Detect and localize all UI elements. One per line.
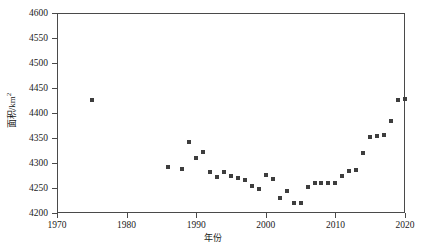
data-point (201, 150, 205, 154)
data-point (271, 177, 275, 181)
data-point (306, 185, 310, 189)
y-axis-title-text: 面积/km (7, 96, 17, 128)
x-axis-tick-label: 1970 (35, 220, 79, 230)
data-point (361, 151, 365, 155)
data-point (236, 176, 240, 180)
data-point (375, 134, 379, 138)
data-point (292, 201, 296, 205)
x-axis-tick (57, 213, 58, 218)
data-point (180, 167, 184, 171)
x-axis-tick (405, 213, 406, 218)
data-point (396, 98, 400, 102)
data-point (285, 189, 289, 193)
x-axis-tick (335, 213, 336, 218)
data-point (278, 196, 282, 200)
y-axis-tick (52, 13, 57, 14)
y-axis-tick-label: 4250 (8, 183, 48, 193)
data-point (250, 184, 254, 188)
x-axis-tick-label: 2010 (313, 220, 357, 230)
data-point (403, 97, 407, 101)
y-axis-title: 面积/km2 (4, 71, 17, 151)
data-point (90, 98, 94, 102)
data-point (382, 133, 386, 137)
data-point (166, 165, 170, 169)
data-point (319, 181, 323, 185)
data-point (264, 173, 268, 177)
data-point (229, 174, 233, 178)
data-point (340, 174, 344, 178)
scatter-chart: 420042504300435044004450450045504600 197… (0, 0, 426, 252)
data-point (354, 168, 358, 172)
y-axis-tick-label: 4200 (8, 208, 48, 218)
data-point (333, 181, 337, 185)
data-point (257, 187, 261, 191)
y-axis-title-superscript: 2 (5, 93, 13, 97)
y-axis-tick (52, 88, 57, 89)
y-axis-tick-label: 4500 (8, 58, 48, 68)
data-point (187, 140, 191, 144)
x-axis-tick (266, 213, 267, 218)
data-point (215, 175, 219, 179)
x-axis-tick-label: 1980 (105, 220, 149, 230)
x-axis-tick-label: 2020 (383, 220, 426, 230)
y-axis-tick (52, 113, 57, 114)
data-point (222, 170, 226, 174)
x-axis-tick-label: 2000 (244, 220, 288, 230)
y-axis-tick (52, 138, 57, 139)
plot-area (57, 13, 405, 213)
x-axis-tick-label: 1990 (174, 220, 218, 230)
y-axis-tick (52, 188, 57, 189)
data-point (389, 119, 393, 123)
x-axis-tick (127, 213, 128, 218)
y-axis-tick (52, 63, 57, 64)
y-axis-tick-label: 4300 (8, 158, 48, 168)
x-axis-tick (196, 213, 197, 218)
data-point (299, 201, 303, 205)
data-point (326, 181, 330, 185)
data-point (243, 178, 247, 182)
data-point (347, 169, 351, 173)
data-point (208, 170, 212, 174)
y-axis-tick-label: 4600 (8, 8, 48, 18)
data-point (313, 181, 317, 185)
y-axis-tick (52, 163, 57, 164)
x-axis-title: 年份 (0, 233, 426, 243)
y-axis-tick-label: 4550 (8, 33, 48, 43)
data-point (194, 156, 198, 160)
data-point (368, 135, 372, 139)
y-axis-tick (52, 38, 57, 39)
